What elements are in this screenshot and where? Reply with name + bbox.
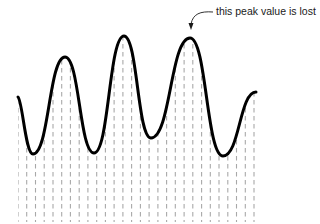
waveform-curve [18, 36, 256, 156]
sample-lines [18, 20, 254, 222]
sampling-diagram [0, 0, 320, 224]
annotation-arrow [189, 12, 214, 30]
arrowhead-icon [189, 23, 194, 30]
annotation-label: this peak value is lost [216, 5, 316, 17]
